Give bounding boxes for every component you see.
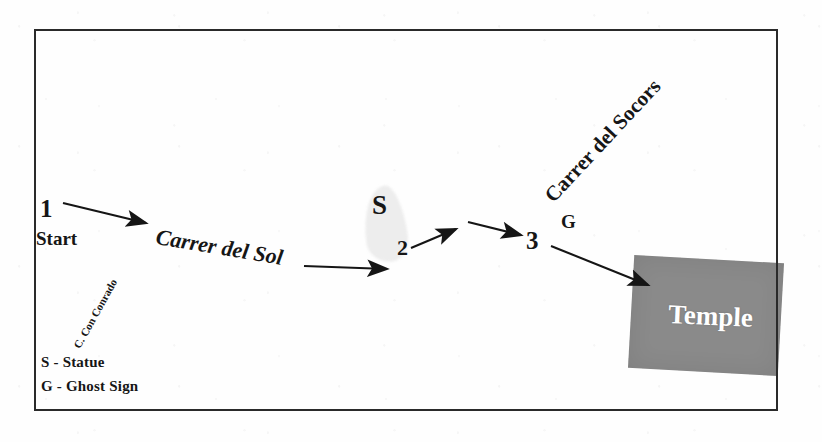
marker-s-statue: S xyxy=(372,192,387,219)
arrow-start-to-sol xyxy=(63,203,146,223)
arrow-mid-to-3 xyxy=(468,222,521,235)
arrow-layer xyxy=(0,0,822,442)
legend-item-ghost-sign: G - Ghost Sign xyxy=(41,379,138,394)
arrow-2-to-mid xyxy=(411,229,456,248)
marker-g-ghost-sign: G xyxy=(561,212,576,231)
arrow-sol-to-2 xyxy=(304,266,387,269)
node-1-start-label: Start xyxy=(36,229,77,248)
arrow-3-to-temple xyxy=(551,246,648,285)
legend-item-statue: S - Statue xyxy=(41,355,105,370)
node-1-number: 1 xyxy=(40,196,53,221)
node-3-number: 3 xyxy=(526,228,539,253)
node-2-number: 2 xyxy=(397,237,408,259)
